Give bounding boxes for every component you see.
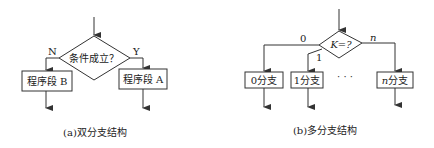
condition-text: 条件成立？ bbox=[69, 52, 119, 64]
branch-n-line bbox=[362, 43, 395, 71]
branch-n-text: 分支 bbox=[388, 75, 408, 86]
no-label: N bbox=[48, 46, 57, 57]
branch-1-label: 1 bbox=[316, 52, 322, 63]
condition-text: K=? bbox=[329, 39, 352, 50]
double-branch-diagram: 条件成立？ N Y 程序段 B 程序段 A (a)双分支结构 bbox=[22, 17, 167, 138]
flowchart-canvas: 条件成立？ N Y 程序段 B 程序段 A (a)双分支结构 K=? 0 1 n bbox=[0, 0, 434, 148]
branch-n-block-label: n分支 bbox=[382, 75, 408, 86]
caption-b: (b)多分支结构 bbox=[293, 124, 357, 136]
no-branch-line bbox=[46, 58, 59, 70]
branch-0-label: 0 bbox=[300, 33, 306, 44]
program-block-b-label: 程序段 B bbox=[27, 75, 68, 87]
caption-a: (a)双分支结构 bbox=[63, 126, 127, 138]
branch-0-line bbox=[264, 45, 319, 71]
yes-label: Y bbox=[132, 46, 140, 57]
program-block-a-label: 程序段 A bbox=[123, 73, 164, 85]
yes-branch-line bbox=[130, 58, 143, 68]
branch-1-block-label: 1分支 bbox=[294, 75, 320, 86]
branch-n-label: n bbox=[370, 32, 376, 43]
ellipsis: · · · bbox=[337, 71, 353, 82]
multi-branch-diagram: K=? 0 1 n 0分支 1分支 · · · n分支 (b)多分支结构 bbox=[245, 9, 413, 136]
branch-0-block-label: 0分支 bbox=[251, 75, 277, 86]
